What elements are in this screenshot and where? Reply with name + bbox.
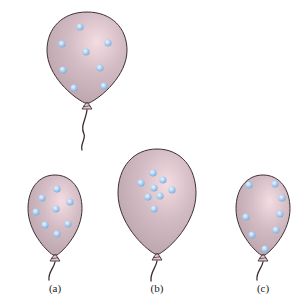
gas-particle-icon: [150, 205, 157, 212]
gas-particle-icon: [104, 39, 111, 46]
gas-particle-icon: [156, 192, 163, 199]
gas-particle-icon: [96, 64, 103, 71]
gas-particle-icon: [41, 221, 48, 228]
gas-particle-icon: [168, 186, 175, 193]
gas-particle-icon: [58, 40, 65, 47]
label-b: (b): [151, 282, 164, 294]
gas-particle-icon: [278, 194, 285, 201]
gas-particle-icon: [271, 180, 278, 187]
gas-particle-icon: [245, 181, 252, 188]
gas-particle-icon: [82, 48, 89, 55]
balloon-figure: (a) (b) (c): [0, 0, 304, 307]
label-a: (a): [49, 282, 61, 294]
gas-particle-icon: [137, 179, 144, 186]
gas-particle-icon: [242, 213, 249, 220]
balloon-c: [236, 175, 290, 280]
gas-particle-icon: [261, 245, 268, 252]
balloon-top: [47, 12, 127, 150]
balloon-body: [118, 149, 196, 254]
balloon-a: [28, 175, 82, 280]
balloon-string: [257, 262, 263, 280]
gas-particle-icon: [150, 184, 157, 191]
balloon-body: [47, 12, 127, 103]
gas-particle-icon: [272, 226, 279, 233]
gas-particle-icon: [159, 176, 166, 183]
gas-particle-icon: [100, 82, 107, 89]
gas-particle-icon: [66, 198, 73, 205]
gas-particle-icon: [59, 66, 66, 73]
gas-particle-icon: [53, 185, 60, 192]
gas-particle-icon: [38, 194, 45, 201]
gas-particle-icon: [64, 220, 71, 227]
balloon-b: [118, 149, 196, 281]
balloons-diagram: [0, 0, 304, 307]
gas-particle-icon: [32, 208, 39, 215]
gas-particle-icon: [144, 193, 151, 200]
gas-particle-icon: [76, 23, 83, 30]
gas-particle-icon: [70, 84, 77, 91]
balloon-string: [151, 261, 157, 281]
balloon-string: [49, 262, 55, 280]
gas-particle-icon: [248, 231, 255, 238]
balloon-string: [82, 110, 87, 150]
gas-particle-icon: [53, 230, 60, 237]
label-c: (c): [257, 282, 269, 294]
gas-particle-icon: [149, 169, 156, 176]
gas-particle-icon: [276, 210, 283, 217]
gas-particle-icon: [52, 205, 59, 212]
